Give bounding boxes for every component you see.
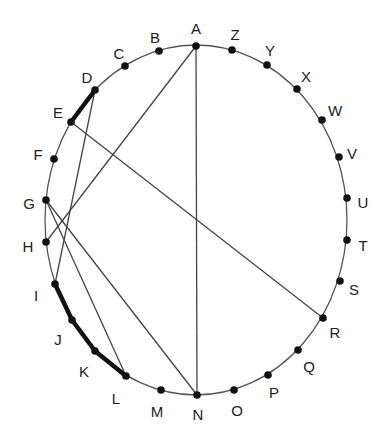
- point-label-D: D: [82, 69, 93, 86]
- point-dot-Z: [228, 46, 236, 54]
- point-label-O: O: [231, 402, 243, 419]
- point-label-W: W: [328, 102, 343, 119]
- point-label-K: K: [79, 363, 89, 380]
- point-dot-L: [122, 372, 130, 380]
- point-dot-J: [68, 316, 76, 324]
- point-dot-X: [293, 85, 301, 93]
- point-label-U: U: [358, 194, 369, 211]
- point-label-V: V: [347, 145, 357, 162]
- point-dot-C: [121, 62, 129, 70]
- point-dot-B: [155, 47, 163, 55]
- point-dot-H: [42, 238, 50, 246]
- point-label-S: S: [349, 281, 359, 298]
- point-label-G: G: [23, 195, 35, 212]
- point-label-L: L: [112, 390, 120, 407]
- point-dot-Q: [294, 346, 302, 354]
- point-label-A: A: [191, 20, 201, 37]
- point-label-F: F: [33, 146, 42, 163]
- point-label-Y: Y: [265, 42, 275, 59]
- point-dot-P: [264, 371, 272, 379]
- point-dot-K: [91, 347, 99, 355]
- point-label-P: P: [269, 384, 279, 401]
- point-label-J: J: [54, 331, 62, 348]
- point-dot-D: [91, 86, 99, 94]
- point-dot-F: [50, 155, 58, 163]
- point-dot-T: [343, 236, 351, 244]
- point-dot-N: [193, 391, 201, 399]
- circle-chord-diagram: AZYXWVUTSRQPONMLKJIHGFEDCB: [0, 0, 387, 442]
- point-dot-M: [157, 386, 165, 394]
- point-dot-S: [336, 277, 344, 285]
- point-dot-U: [343, 194, 351, 202]
- chord-A-H: [46, 46, 196, 242]
- point-label-R: R: [330, 324, 341, 341]
- point-dot-Y: [263, 61, 271, 69]
- point-dot-V: [335, 153, 343, 161]
- point-dot-A: [192, 42, 200, 50]
- point-label-E: E: [53, 104, 63, 121]
- point-dot-O: [230, 386, 238, 394]
- point-label-B: B: [150, 29, 160, 46]
- point-label-Q: Q: [303, 358, 315, 375]
- point-dot-W: [318, 116, 326, 124]
- point-label-I: I: [34, 287, 38, 304]
- point-dot-E: [67, 118, 75, 126]
- point-dot-I: [51, 280, 59, 288]
- point-label-M: M: [151, 403, 164, 420]
- point-label-Z: Z: [230, 26, 239, 43]
- point-label-C: C: [114, 45, 125, 62]
- point-label-T: T: [358, 237, 367, 254]
- point-label-X: X: [301, 68, 311, 85]
- point-label-N: N: [193, 406, 204, 423]
- point-dot-G: [42, 196, 50, 204]
- point-label-H: H: [23, 238, 34, 255]
- point-dot-R: [319, 314, 327, 322]
